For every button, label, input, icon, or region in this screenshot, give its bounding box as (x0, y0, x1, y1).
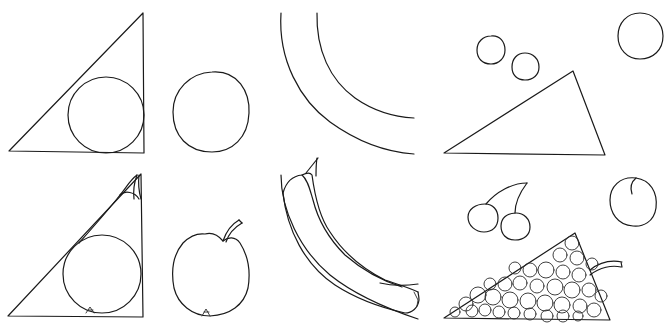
circles-and-triangle-shapes (444, 13, 663, 155)
apple-drawing (173, 220, 249, 316)
cherries-drawing (468, 183, 530, 240)
banana-drawing (281, 158, 419, 319)
grape-berries (450, 236, 607, 322)
drawing-canvas (0, 0, 667, 330)
pear-drawing (8, 174, 143, 317)
triangle-with-circle-shape (9, 13, 144, 153)
circle-shape (173, 72, 249, 152)
peach-drawing (610, 178, 656, 226)
grapes-drawing (444, 233, 622, 322)
arc-shapes (281, 13, 414, 154)
